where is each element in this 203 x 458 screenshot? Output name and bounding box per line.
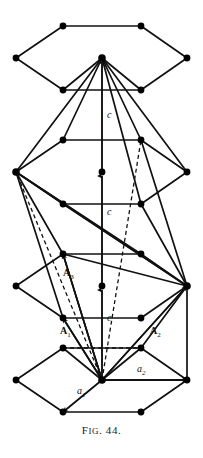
- c-axis-label-upper: c: [107, 110, 111, 120]
- a2-label-sub: 2: [142, 369, 146, 377]
- a1-label-sub: 1: [82, 391, 86, 399]
- node: [138, 251, 145, 258]
- caption-fig-smallcaps: IG: [88, 426, 99, 436]
- node-center-bottom: [98, 376, 106, 384]
- node: [60, 87, 67, 94]
- node: [184, 55, 191, 62]
- A2-label: A2: [150, 326, 161, 339]
- c-axis-label-lower: c: [107, 313, 111, 323]
- node: [138, 409, 145, 416]
- a1-label: a1: [77, 386, 86, 399]
- node: [13, 55, 20, 62]
- A2-label-sub: 2: [157, 331, 161, 339]
- node: [138, 137, 145, 144]
- figure-container: c c c A3 A1 A2 a1 a2 FIG. 44.: [0, 0, 203, 458]
- node: [60, 137, 67, 144]
- A1-label-sub: 1: [67, 331, 71, 339]
- node-center-middle: [99, 169, 106, 176]
- node: [60, 409, 67, 416]
- A3-label-sub: 3: [70, 273, 74, 281]
- node-center-top: [98, 54, 106, 62]
- A3-label: A3: [63, 268, 74, 281]
- node: [184, 169, 191, 176]
- node: [184, 377, 191, 384]
- node: [138, 87, 145, 94]
- c-axis-label-middle: c: [107, 207, 111, 217]
- node: [138, 201, 145, 208]
- node: [13, 377, 20, 384]
- caption-fig-number: . 44.: [99, 424, 121, 436]
- node: [60, 345, 67, 352]
- node: [138, 345, 145, 352]
- node: [60, 251, 67, 258]
- A1-label: A1: [60, 326, 71, 339]
- figure-caption: FIG. 44.: [0, 424, 203, 436]
- node: [138, 315, 145, 322]
- node: [138, 23, 145, 30]
- node-right-hub-lower: [183, 282, 191, 290]
- node-left-hub-middle: [12, 168, 20, 176]
- lattice-diagram: [0, 0, 203, 458]
- node: [60, 23, 67, 30]
- node: [60, 315, 67, 322]
- node-center-lower: [99, 283, 106, 290]
- node: [13, 283, 20, 290]
- a2-label: a2: [137, 364, 146, 377]
- node: [60, 201, 67, 208]
